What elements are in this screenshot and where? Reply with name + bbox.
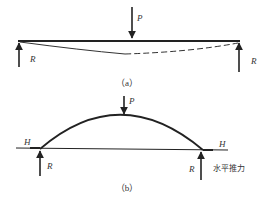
load-label-b: P [128,96,135,106]
baseline [16,148,228,150]
figure-b: P H H R R 水平推力 （b） [16,96,245,193]
thrust-label-left: H [23,137,31,147]
reaction-label-left-b: R [46,161,53,171]
arch [40,115,203,150]
deflection-curve [20,42,125,54]
diagram-canvas: P R R （a） P H H R R 水平推力 （b） [0,0,269,208]
figure-a: P R R （a） [18,7,257,88]
reaction-label-left-a: R [29,54,36,64]
reaction-label-right-a: R [250,56,257,66]
caption-a: （a） [116,78,138,88]
load-label-a: P [136,13,143,23]
reaction-label-right-b: R [188,164,195,174]
caption-b: （b） [116,183,139,193]
thrust-label-right: H [218,139,226,149]
thrust-note: 水平推力 [213,163,245,173]
deflection-curve-dashed [125,43,238,54]
